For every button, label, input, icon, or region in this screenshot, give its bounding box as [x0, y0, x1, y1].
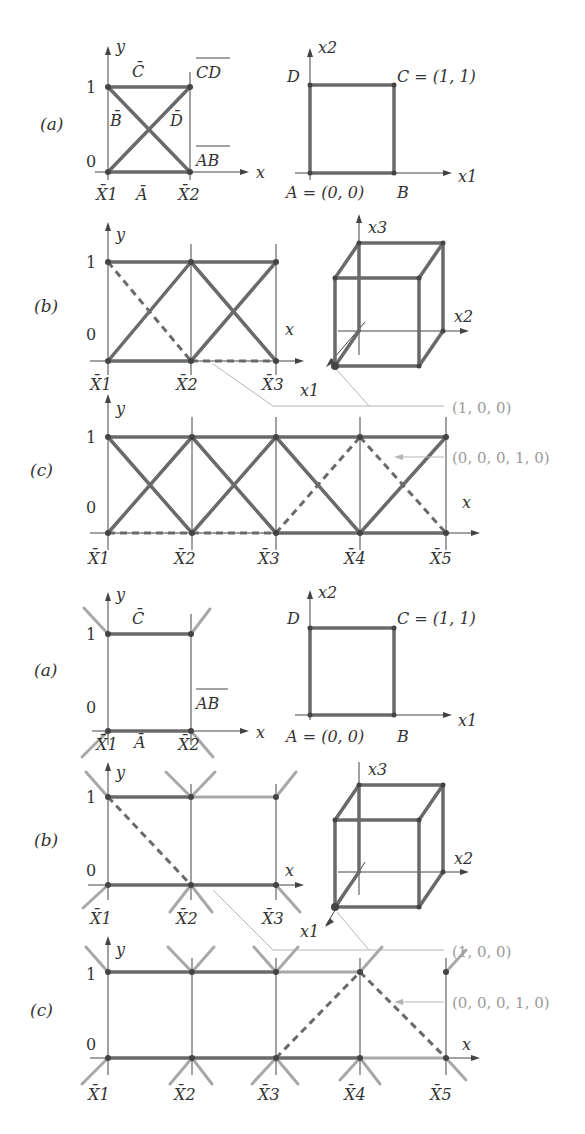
vertex-a-label: A = (0, 0) [284, 183, 364, 202]
label-x2-bar: X̄2 [172, 1083, 196, 1104]
label-d-bar: D̄ [169, 109, 183, 130]
x3-axis-label: x3 [368, 760, 387, 779]
x1-axis-label: x1 [458, 711, 477, 730]
label-x3-bar: X̄3 [260, 907, 284, 928]
unit-square [310, 628, 394, 715]
panel-label: (a) [34, 660, 57, 680]
vertex [187, 169, 193, 175]
x2-axis-label: x2 [454, 307, 473, 326]
y-axis-label: y [115, 399, 126, 418]
label-a-bar: Ā [132, 732, 146, 752]
vertex [105, 169, 111, 175]
x-axis-label: x [256, 723, 265, 742]
panel-label: (c) [30, 460, 53, 480]
label-x1-bar: X̄1 [94, 183, 118, 204]
label-x2-bar: X̄2 [176, 733, 200, 754]
x2-axis-label: x2 [318, 583, 337, 602]
x3-axis-label: x3 [368, 218, 387, 237]
tick-0: 0 [86, 325, 96, 344]
label-x2-bar: X̄2 [172, 547, 196, 568]
annotation-point-100: (1, 0, 0) [452, 399, 511, 417]
bottom-panel-a: (a) y x 1 0 C̄ AB X̄1 Ā X̄2 x2 x1 D C = … [34, 583, 477, 757]
label-x5-bar: X̄5 [428, 1083, 452, 1104]
label-c-bar: C̄ [132, 60, 144, 81]
label-c-bar: C̄ [132, 607, 144, 628]
annotation-point-00010: (0, 0, 0, 1, 0) [452, 449, 550, 467]
annotation-pointers-bottom [213, 890, 444, 950]
label-x2-bar: X̄2 [174, 373, 198, 394]
vertex-d-label: D [286, 67, 300, 86]
tick-1: 1 [86, 428, 96, 447]
label-ab-bar: AB [194, 151, 220, 170]
vertex-d-label: D [286, 609, 300, 628]
label-x2-bar: X̄2 [174, 907, 198, 928]
x-axis-label: x [256, 163, 265, 182]
y-axis-label: y [115, 37, 126, 56]
y-axis-label: y [115, 225, 126, 244]
label-x2-bar: X̄2 [176, 183, 200, 204]
label-x3-bar: X̄3 [256, 547, 280, 568]
label-x4-bar: X̄4 [342, 547, 366, 568]
tick-1: 1 [86, 253, 96, 272]
label-x1-bar: X̄1 [86, 1083, 110, 1104]
vertex-b-label: B [396, 183, 409, 202]
parallel-coordinates-figure: (a) y x 1 0 C̄ B̄ D̄ CD AB X̄1 Ā X̄2 [0, 0, 585, 1134]
x-axis-label: x [285, 320, 294, 339]
tick-1: 1 [86, 625, 96, 644]
vertex-c-label: C = (1, 1) [397, 609, 476, 628]
unit-square [310, 85, 394, 173]
y-axis-label: y [115, 585, 126, 604]
label-a-bar: Ā [134, 184, 148, 204]
vertex-c-label: C = (1, 1) [397, 67, 476, 86]
label-x1-bar: X̄1 [94, 733, 118, 754]
tick-0: 0 [86, 861, 96, 880]
label-x1-bar: X̄1 [86, 547, 110, 568]
panel-label: (a) [40, 114, 63, 134]
panel-label: (c) [30, 1000, 53, 1020]
tick-0: 0 [86, 698, 96, 717]
label-x5-bar: X̄5 [428, 547, 452, 568]
x2-axis-label: x2 [454, 849, 473, 868]
x-axis-label: x [462, 493, 471, 512]
y-axis-arrow-icon [105, 46, 111, 55]
x2-axis-label: x2 [318, 38, 337, 57]
panel-label: (b) [34, 830, 58, 850]
x1-axis-label: x1 [458, 167, 477, 186]
tick-1: 1 [86, 78, 96, 97]
annotation-point-100: (1, 0, 0) [452, 943, 511, 961]
x1-axis-label: x1 [300, 381, 319, 400]
unit-cube: x3 x2 x1 [300, 214, 473, 400]
label-x1-bar: X̄1 [88, 373, 112, 394]
unit-cube: x3 x2 x1 [300, 760, 473, 941]
y-axis-label: y [115, 940, 126, 959]
annotation-pointers-top [213, 364, 444, 406]
top-panel-a: (a) y x 1 0 C̄ B̄ D̄ CD AB X̄1 Ā X̄2 [40, 37, 477, 204]
vertex [105, 84, 111, 90]
tick-0: 0 [86, 498, 96, 517]
vertex [187, 84, 193, 90]
label-ab-bar: AB [194, 694, 220, 713]
tick-1: 1 [86, 788, 96, 807]
label-x3-bar: X̄3 [260, 373, 284, 394]
bottom-panel-b: (b) y x 1 0 X̄1 X̄2 X̄3 [34, 760, 473, 941]
x-axis-arrow-icon [240, 169, 249, 175]
x-axis-label: x [285, 861, 294, 880]
vertex-a-label: A = (0, 0) [284, 727, 364, 746]
top-panel-c: (c) y x 1 0 X̄1 X̄2 X̄3 X̄4 X̄5 (1, 0, 0… [30, 394, 550, 568]
vertex-b-label: B [396, 727, 409, 746]
top-panel-b: (b) y x 1 0 X̄1 X̄2 X̄3 [34, 214, 473, 400]
panel-label: (b) [34, 296, 58, 316]
tick-1: 1 [86, 965, 96, 984]
label-x4-bar: X̄4 [342, 1083, 366, 1104]
y-axis-label: y [115, 763, 126, 782]
x1-axis-label: x1 [300, 922, 319, 941]
x-axis-label: x [462, 1035, 471, 1054]
label-b-bar: B̄ [109, 109, 122, 130]
tick-0: 0 [86, 1035, 96, 1054]
tick-0: 0 [86, 152, 96, 171]
annotation-point-00010: (0, 0, 0, 1, 0) [452, 994, 550, 1012]
bottom-panel-c: (c) y x 1 [30, 936, 550, 1104]
label-x3-bar: X̄3 [256, 1083, 280, 1104]
label-cd-bar: CD [196, 63, 221, 82]
label-x1-bar: X̄1 [88, 907, 112, 928]
